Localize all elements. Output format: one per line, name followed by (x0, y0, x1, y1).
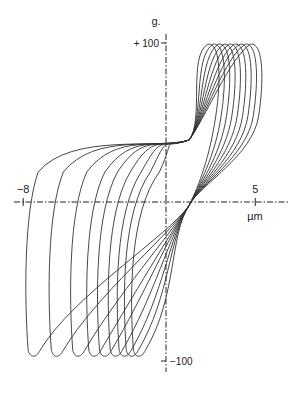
x-tick-label: −8 (17, 183, 30, 195)
y-tick-label: + 100 (134, 38, 160, 49)
x-axis-label: µm (247, 210, 263, 222)
hysteresis-loop-6 (108, 44, 235, 356)
hysteresis-loop-1 (26, 44, 262, 356)
hysteresis-loop-2 (49, 44, 256, 356)
x-tick-label: 5 (252, 183, 258, 195)
hysteresis-chart: −85+ 100−100 g. µm (0, 0, 296, 394)
y-axis-label: g. (151, 15, 160, 27)
loops (26, 44, 262, 356)
y-tick-label: −100 (170, 356, 193, 367)
hysteresis-loop-9 (132, 44, 219, 356)
